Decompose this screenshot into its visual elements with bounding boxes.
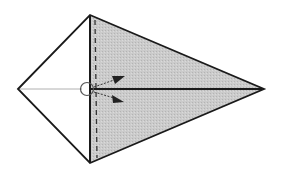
origami-diagram	[0, 0, 282, 179]
